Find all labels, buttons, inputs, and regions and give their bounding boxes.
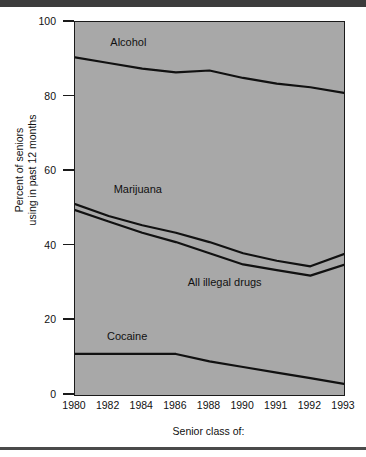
series-line-marijuana	[75, 204, 344, 266]
page-bottom-rule	[0, 447, 366, 450]
y-axis-tick-mark	[63, 20, 74, 22]
y-axis-tick-mark	[63, 244, 74, 246]
y-axis-tick-label: 80	[44, 90, 56, 102]
series-label-all-illegal-drugs: All illegal drugs	[188, 276, 262, 289]
series-label-marijuana: Marijuana	[114, 183, 162, 196]
plot-area: AlcoholMarijuanaAll illegal drugsCocaine	[74, 21, 345, 396]
y-axis-tick-mark	[63, 169, 74, 171]
y-axis-tick-label: 20	[44, 313, 56, 325]
chart-figure: 020406080100 198019821984198619881990199…	[0, 7, 366, 447]
y-axis-tick-label: 40	[44, 239, 56, 251]
y-axis-tick-mark	[63, 95, 74, 97]
y-axis-title: Percent of seniors using in past 12 mont…	[13, 80, 39, 260]
y-axis-tick-mark	[63, 393, 74, 395]
y-axis-tick: 100	[0, 15, 74, 27]
x-axis-tick-label: 1993	[320, 399, 366, 412]
series-line-alcohol	[75, 57, 344, 92]
series-label-alcohol: Alcohol	[110, 36, 146, 49]
y-axis-tick-mark	[63, 318, 74, 320]
series-label-cocaine: Cocaine	[107, 330, 147, 343]
page-top-bar	[0, 0, 366, 7]
series-line-cocaine	[75, 354, 344, 384]
y-axis-tick-label: 100	[38, 15, 56, 27]
y-axis-tick-label: 60	[44, 164, 56, 176]
x-axis-title: Senior class of:	[74, 425, 343, 437]
y-axis-tick: 20	[0, 313, 74, 325]
